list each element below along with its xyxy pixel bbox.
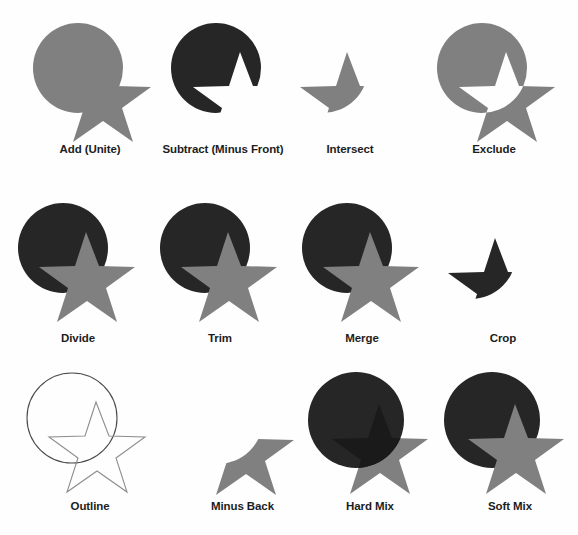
glyph-hard-mix	[308, 372, 428, 494]
shape-art-crop	[455, 218, 545, 322]
pathfinder-label-hard-mix: Hard Mix	[300, 500, 440, 512]
glyph-intersect	[300, 52, 396, 142]
pathfinder-label-soft-mix: Soft Mix	[440, 500, 578, 512]
pathfinder-example-crop[interactable]	[455, 218, 545, 322]
pathfinder-example-exclude[interactable]	[424, 14, 574, 136]
shape-art-outline	[20, 370, 160, 495]
pathfinder-example-intersect[interactable]	[305, 14, 395, 136]
glyph-crop	[448, 238, 544, 328]
pathfinder-reference-board: Add (Unite) Subtract (Minus Front)	[0, 0, 578, 535]
pathfinder-label-outline: Outline	[20, 500, 160, 512]
shape-art-divide	[8, 200, 148, 322]
shape-art-trim	[150, 200, 290, 322]
pathfinder-example-minus-back[interactable]	[190, 425, 295, 495]
pathfinder-label-subtract-minus-front: Subtract (Minus Front)	[148, 143, 298, 155]
glyph-exclude-xor	[437, 23, 555, 142]
pathfinder-label-exclude: Exclude	[419, 143, 569, 155]
pathfinder-label-crop: Crop	[448, 332, 558, 344]
pathfinder-label-trim: Trim	[150, 332, 290, 344]
pathfinder-example-subtract-minus-front[interactable]	[158, 14, 288, 136]
shape-art-minus-back	[190, 425, 295, 495]
shape-art-subtract-minus-front	[158, 14, 288, 136]
pathfinder-example-soft-mix[interactable]	[440, 370, 578, 495]
glyph-trim	[160, 203, 277, 322]
shape-art-hard-mix	[300, 370, 440, 495]
shape-art-intersect	[305, 14, 395, 136]
pathfinder-label-divide: Divide	[8, 332, 148, 344]
glyph-merge	[302, 203, 419, 322]
pathfinder-example-merge[interactable]	[292, 200, 432, 322]
pathfinder-example-trim[interactable]	[150, 200, 290, 322]
pathfinder-label-merge: Merge	[292, 332, 432, 344]
glyph-outline	[27, 373, 145, 492]
glyph-soft-mix	[444, 372, 564, 494]
pathfinder-label-minus-back: Minus Back	[180, 500, 305, 512]
shape-art-merge	[292, 200, 432, 322]
shape-art-exclude	[424, 14, 574, 136]
pathfinder-label-intersect: Intersect	[290, 143, 410, 155]
glyph-divide	[18, 203, 135, 322]
shape-art-soft-mix	[440, 370, 578, 495]
pathfinder-example-hard-mix[interactable]	[300, 370, 440, 495]
pathfinder-example-divide[interactable]	[8, 200, 148, 322]
glyph-union	[33, 23, 151, 142]
pathfinder-example-outline[interactable]	[20, 370, 160, 495]
